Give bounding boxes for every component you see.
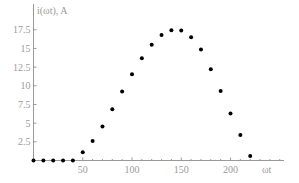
data-point	[100, 125, 104, 129]
data-point	[179, 29, 183, 33]
data-point	[209, 67, 213, 71]
data-point	[61, 159, 65, 163]
y-tick-label: 15	[21, 43, 31, 54]
data-point	[229, 111, 233, 115]
data-point	[110, 107, 114, 111]
data-point	[160, 33, 164, 37]
data-point	[219, 89, 223, 93]
data-point	[238, 133, 242, 137]
data-point	[71, 159, 75, 163]
y-ticks: 2.557.51012.51517.5	[13, 24, 37, 147]
y-tick-label: 17.5	[13, 24, 31, 35]
data-point	[91, 139, 95, 143]
data-point	[32, 159, 36, 163]
x-axis-label: ωt	[262, 164, 272, 175]
data-point	[169, 28, 173, 32]
data-point	[41, 159, 45, 163]
x-tick-label: 150	[174, 164, 189, 175]
y-tick-label: 12.5	[13, 62, 31, 73]
data-point	[248, 154, 252, 158]
x-tick-label: 100	[125, 164, 140, 175]
y-tick-label: 7.5	[18, 99, 31, 110]
data-point	[130, 72, 134, 76]
y-axis: 2.557.51012.51517.5 i(ωt), A	[13, 4, 68, 161]
y-tick-label: 2.5	[18, 136, 31, 147]
data-point	[120, 89, 124, 93]
y-tick-label: 5	[26, 118, 31, 129]
data-point	[140, 56, 144, 60]
y-tick-label: 10	[21, 80, 31, 91]
y-axis-label: i(ωt), A	[37, 5, 68, 17]
scatter-chart: 2.557.51012.51517.5 i(ωt), A 50100150200…	[0, 0, 299, 183]
data-points	[32, 28, 253, 162]
data-point	[51, 159, 55, 163]
x-tick-label: 50	[78, 164, 88, 175]
data-point	[189, 35, 193, 39]
x-tick-label: 200	[223, 164, 238, 175]
data-point	[199, 48, 203, 52]
data-point	[81, 150, 85, 154]
data-point	[150, 43, 154, 47]
